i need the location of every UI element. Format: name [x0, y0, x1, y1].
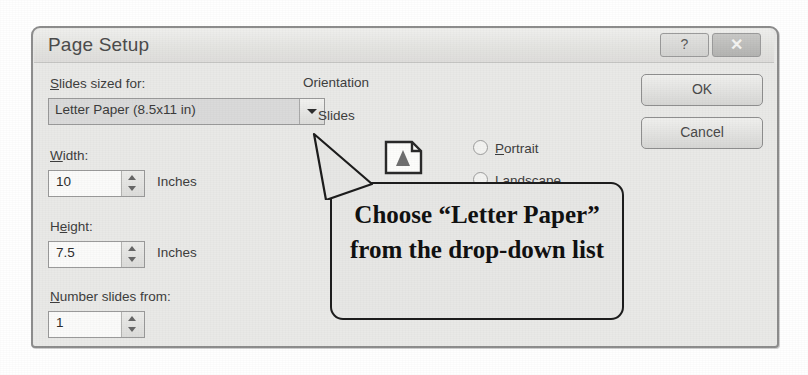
help-button[interactable]: ? — [660, 33, 709, 57]
number-spinner-arrows[interactable] — [121, 312, 144, 337]
close-icon[interactable]: ✕ — [712, 33, 761, 57]
height-unit-label: Inches — [157, 245, 197, 260]
radio-portrait-icon[interactable] — [473, 140, 488, 155]
spinner-up-icon[interactable] — [128, 316, 136, 321]
width-stepper[interactable]: 10 — [48, 170, 145, 197]
number-slides-from-stepper[interactable]: 1 — [48, 311, 145, 338]
number-slides-from-label-text: umber slides from: — [60, 289, 171, 304]
width-spinner-arrows[interactable] — [121, 171, 144, 196]
spinner-up-icon[interactable] — [128, 246, 136, 251]
portrait-accesskey: P — [495, 141, 504, 156]
slides-sized-for-dropdown[interactable]: Letter Paper (8.5x11 in) — [48, 98, 325, 125]
callout-body: Choose “Letter Paper” from the drop-down… — [330, 182, 624, 320]
slides-sized-for-value: Letter Paper (8.5x11 in) — [55, 102, 196, 117]
slides-sized-for-accesskey: S — [50, 76, 59, 91]
spinner-up-icon[interactable] — [128, 175, 136, 180]
dialog-titlebar: Page Setup ? ✕ — [34, 29, 774, 63]
width-value: 10 — [56, 174, 71, 189]
number-slides-from-label: Number slides from: — [50, 289, 171, 304]
number-slides-from-accesskey: N — [50, 289, 60, 304]
orientation-group-label: Orientation — [303, 75, 369, 90]
dialog-title: Page Setup — [48, 34, 149, 56]
spinner-down-icon[interactable] — [128, 257, 136, 262]
width-label-text: idth: — [63, 148, 89, 163]
number-slides-from-value: 1 — [56, 315, 64, 330]
spinner-down-icon[interactable] — [128, 186, 136, 191]
ok-button[interactable]: OK — [641, 74, 763, 106]
height-spinner-arrows[interactable] — [121, 242, 144, 267]
height-value: 7.5 — [56, 245, 75, 260]
height-stepper[interactable]: 7.5 — [48, 241, 145, 268]
width-unit-label: Inches — [157, 174, 197, 189]
callout-text: Choose “Letter Paper” from the drop-down… — [346, 197, 608, 267]
height-label-prefix: H — [50, 219, 60, 234]
height-label-text: ight: — [67, 219, 93, 234]
portrait-label: ortrait — [504, 141, 539, 156]
height-label: Height: — [50, 219, 93, 234]
radio-portrait[interactable]: Portrait — [473, 140, 539, 156]
width-accesskey: W — [50, 148, 63, 163]
width-label: Width: — [50, 148, 88, 163]
slides-sized-for-label: Slides sized for: — [50, 76, 145, 91]
annotation-callout: Choose “Letter Paper” from the drop-down… — [330, 182, 622, 318]
slides-sized-for-label-text: lides sized for: — [59, 76, 145, 91]
spinner-down-icon[interactable] — [128, 327, 136, 332]
callout-pointer — [310, 110, 430, 200]
cancel-button[interactable]: Cancel — [641, 117, 763, 149]
